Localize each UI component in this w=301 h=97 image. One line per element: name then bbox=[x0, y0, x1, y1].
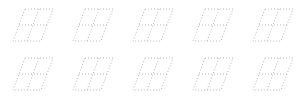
digit-glyph: 6 bbox=[0, 50, 66, 97]
digit-cell-8: 8 bbox=[123, 50, 183, 97]
digit-cell-1: 1 bbox=[3, 1, 63, 49]
digit-glyph: 4 bbox=[180, 1, 247, 49]
digit-cell-0: 0 bbox=[243, 50, 301, 97]
digit-cell-9: 9 bbox=[183, 50, 243, 97]
digit-glyph: 9 bbox=[180, 50, 247, 97]
digit-glyph: 2 bbox=[60, 1, 127, 49]
digit-cell-4: 4 bbox=[183, 1, 243, 49]
digit-glyph: 1 bbox=[0, 1, 66, 49]
digit-glyph: 0 bbox=[240, 50, 301, 97]
digit-glyph: 3 bbox=[120, 1, 187, 49]
digit-glyph: 5 bbox=[240, 1, 301, 49]
digit-cell-2: 2 bbox=[63, 1, 123, 49]
digit-cell-5: 5 bbox=[243, 1, 301, 49]
digit-practice-grid: 1 2 3 4 5 6 7 8 9 0 bbox=[0, 0, 301, 97]
digit-cell-7: 7 bbox=[63, 50, 123, 97]
digit-glyph: 7 bbox=[60, 50, 127, 97]
digit-glyph: 8 bbox=[120, 50, 187, 97]
digit-cell-6: 6 bbox=[3, 50, 63, 97]
digit-cell-3: 3 bbox=[123, 1, 183, 49]
